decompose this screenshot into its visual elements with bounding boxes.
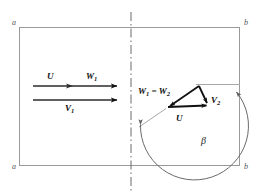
triangle-edge-W [170, 86, 199, 106]
label-V2-sub: 2 [217, 99, 220, 106]
label-W1W2-base2: W [159, 86, 167, 96]
label-V1-sub: 1 [71, 107, 74, 114]
corner-label-bottom-left: a [12, 163, 16, 171]
corner-label-bottom-right: b [244, 163, 248, 171]
triangle-edge-V2 [199, 86, 207, 103]
label-W1W2-equals: = [149, 86, 158, 96]
relative-velocity-extension-line [139, 109, 166, 128]
corner-label-top-right: b [244, 19, 248, 27]
upstream-vectors [33, 84, 117, 100]
label-W1-base: W [86, 71, 94, 81]
passage-frame [19, 27, 240, 166]
label-W1-equals-W2: W1 = W2 [138, 87, 170, 96]
label-W1W2-sub2: 2 [167, 90, 170, 97]
corner-label-top-left: a [12, 19, 16, 27]
label-V2-downstream: V2 [211, 96, 220, 105]
label-W1W2-sub1: 1 [146, 90, 149, 97]
figure-root: a b a b U W1 V1 W1 = W2 V2 U β [0, 0, 258, 194]
label-W1-upstream: W1 [86, 72, 97, 81]
label-V1-upstream: V1 [65, 104, 74, 113]
label-U-downstream: U [176, 114, 183, 123]
label-beta-angle: β [201, 136, 206, 146]
label-W1-sub: 1 [94, 75, 97, 82]
label-W1W2-base1: W [138, 86, 146, 96]
velocity-triangle [168, 86, 207, 107]
label-U-upstream: U [47, 72, 54, 81]
triangle-edge-U [168, 106, 207, 108]
